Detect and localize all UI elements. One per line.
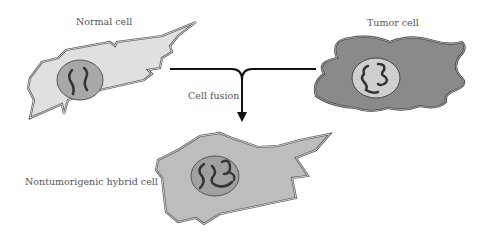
normal-nucleus xyxy=(57,60,103,100)
cell-fusion-label: Cell fusion xyxy=(188,90,239,101)
hybrid-cell xyxy=(156,133,330,224)
normal-cell-label: Normal cell xyxy=(76,16,132,27)
diagram-canvas xyxy=(0,0,485,233)
cell-fusion-diagram: Normal cell Tumor cell Cell fusion Nontu… xyxy=(0,0,485,233)
tumor-cell-label: Tumor cell xyxy=(367,17,419,28)
hybrid-cell-label: Nontumorigenic hybrid cell xyxy=(25,176,158,187)
tumor-cell xyxy=(315,37,465,111)
